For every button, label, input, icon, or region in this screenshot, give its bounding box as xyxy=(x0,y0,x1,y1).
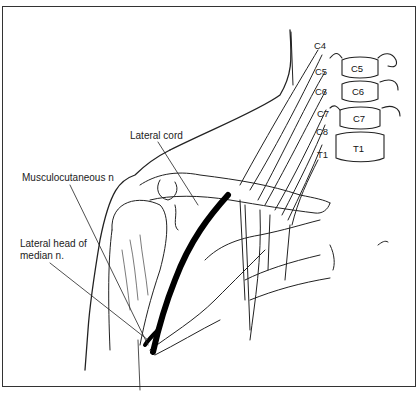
label-musculocutaneous-nerve: Musculocutaneous n xyxy=(22,172,114,184)
vertebra-label-c5: C5 xyxy=(351,63,363,74)
label-lateral-head-median-line2: median n. xyxy=(20,250,64,262)
root-label-t1: T1 xyxy=(317,149,328,160)
vertebra-label-c6: C6 xyxy=(352,86,364,97)
label-lateral-cord: Lateral cord xyxy=(130,130,183,142)
vertebra-label-c7: C7 xyxy=(353,113,365,124)
vertebra-label-t1: T1 xyxy=(353,143,364,154)
root-label-c7: C7 xyxy=(317,108,329,119)
root-label-c4: C4 xyxy=(314,40,326,51)
label-lateral-head-median-line1: Lateral head of xyxy=(20,238,87,250)
root-label-c6: C6 xyxy=(315,86,327,97)
root-label-c8: C8 xyxy=(316,126,328,137)
brachial-plexus-illustration xyxy=(0,0,420,396)
root-label-c5: C5 xyxy=(315,66,327,77)
